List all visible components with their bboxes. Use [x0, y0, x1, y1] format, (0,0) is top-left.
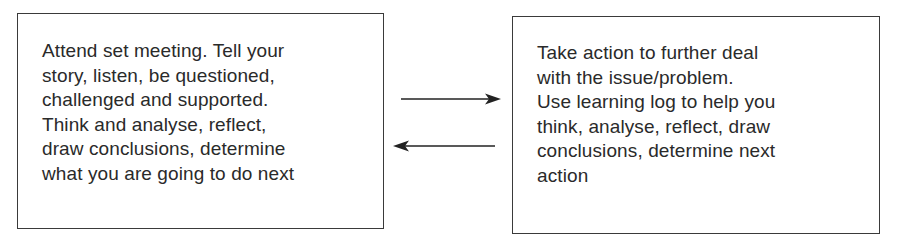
action-step-box: Take action to further deal with the iss… — [512, 16, 880, 234]
action-step-text: Take action to further deal with the iss… — [537, 41, 775, 189]
text-line: think, analyse, reflect, draw — [537, 115, 775, 140]
text-line: Take action to further deal — [537, 41, 775, 66]
text-line: action — [537, 164, 775, 189]
arrow-right-icon — [401, 94, 501, 105]
text-line: Use learning log to help you — [537, 90, 775, 115]
text-line: conclusions, determine next — [537, 139, 775, 164]
arrow-left-icon — [393, 141, 495, 152]
text-line: with the issue/problem. — [537, 66, 775, 91]
